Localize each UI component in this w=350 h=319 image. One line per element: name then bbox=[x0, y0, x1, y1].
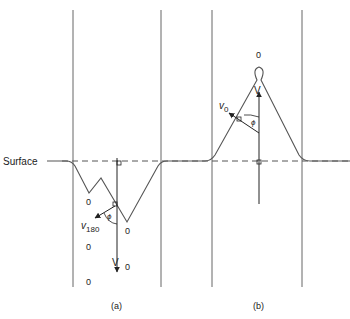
v180-label: v180 bbox=[81, 220, 100, 234]
apex-label: 0 bbox=[256, 50, 261, 60]
diagram-canvas: Surface 0 0 0 0 ϕ v180 V 0 0 V ϕ v0 (a) … bbox=[0, 0, 350, 319]
caption-b: (b) bbox=[253, 301, 264, 311]
surface-profile bbox=[47, 67, 350, 222]
zero-label: 0 bbox=[86, 242, 91, 252]
angle-label: ϕ bbox=[251, 118, 256, 127]
angle-arc bbox=[244, 115, 259, 117]
caption-a: (a) bbox=[111, 301, 122, 311]
right-angle-mark bbox=[117, 161, 121, 165]
zero-label: 0 bbox=[86, 197, 91, 207]
panel-b bbox=[229, 92, 261, 204]
velocity-subscript: 0 bbox=[125, 262, 130, 272]
v0-label: v0 bbox=[219, 100, 229, 114]
boundary-lines bbox=[73, 10, 302, 287]
v180-arrow bbox=[95, 206, 115, 218]
velocity-label: V bbox=[112, 257, 119, 268]
zero-label: 0 bbox=[125, 226, 130, 236]
zero-label: 0 bbox=[86, 277, 91, 287]
velocity-label: V bbox=[254, 85, 261, 96]
angle-label: ϕ bbox=[107, 212, 112, 221]
surface-label: Surface bbox=[3, 156, 38, 167]
